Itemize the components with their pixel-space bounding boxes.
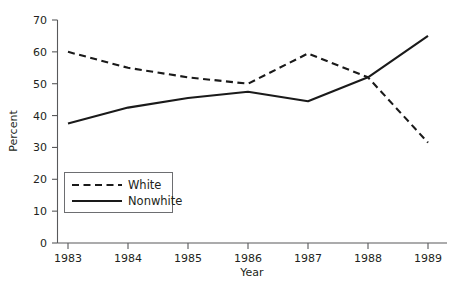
y-tick-label: 50 [33, 78, 47, 91]
y-tick-label: 60 [33, 46, 47, 59]
x-tick-label: 1989 [414, 252, 442, 265]
y-tick-label: 20 [33, 173, 47, 186]
line-chart: 010203040506070 198319841985198619871988… [0, 0, 454, 294]
y-tick-label: 0 [40, 237, 47, 250]
y-tick-label: 70 [33, 14, 47, 27]
x-axis-title: Year [239, 266, 264, 279]
chart-figure: 010203040506070 198319841985198619871988… [0, 0, 454, 294]
x-tick-label: 1987 [294, 252, 322, 265]
chart-background [0, 0, 454, 294]
x-tick-label: 1985 [174, 252, 202, 265]
y-tick-label: 40 [33, 110, 47, 123]
x-tick-label: 1984 [114, 252, 142, 265]
y-tick-label: 10 [33, 205, 47, 218]
legend-label-nonwhite: Nonwhite [128, 194, 182, 208]
x-tick-label: 1983 [54, 252, 82, 265]
legend-label-white: White [128, 178, 161, 192]
legend: White Nonwhite [65, 173, 183, 213]
y-tick-label: 30 [33, 141, 47, 154]
y-axis-title: Percent [7, 110, 20, 152]
x-tick-label: 1988 [354, 252, 382, 265]
x-tick-label: 1986 [234, 252, 262, 265]
cropped-caption-text [8, 285, 308, 294]
